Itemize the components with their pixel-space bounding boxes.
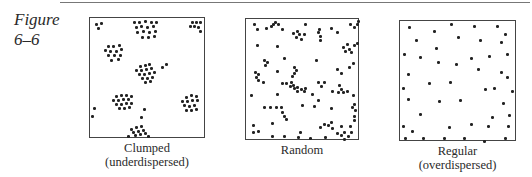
- point-dot: [500, 71, 503, 74]
- point-dot: [276, 45, 279, 48]
- point-dot: [97, 27, 100, 30]
- point-dot: [139, 133, 142, 136]
- point-dot: [250, 94, 253, 97]
- point-dot: [313, 105, 316, 108]
- point-dot: [125, 94, 128, 97]
- point-dot: [340, 72, 343, 75]
- point-dot: [199, 21, 202, 24]
- caption-title: Regular: [389, 144, 526, 158]
- point-dot: [350, 131, 353, 134]
- point-dot: [342, 91, 345, 94]
- point-dot: [404, 137, 407, 140]
- point-dot: [493, 87, 496, 90]
- figure-label: Figure 6–6: [14, 10, 60, 50]
- point-dot: [327, 124, 330, 127]
- top-rule-divider: [60, 2, 530, 3]
- point-dot: [120, 48, 123, 51]
- point-dot: [338, 84, 341, 87]
- point-dot: [127, 135, 130, 138]
- point-dot: [252, 131, 255, 134]
- point-dot: [125, 102, 128, 105]
- point-dot: [304, 23, 307, 26]
- point-dot: [257, 79, 260, 82]
- point-dot: [144, 132, 147, 135]
- point-dot: [269, 106, 272, 109]
- point-dot: [195, 108, 198, 111]
- point-dot: [488, 55, 491, 58]
- point-dot: [148, 31, 151, 34]
- point-dot: [140, 25, 143, 28]
- point-dot: [303, 90, 306, 93]
- point-dot: [281, 111, 284, 114]
- point-dot: [154, 30, 157, 33]
- point-dot: [128, 106, 131, 109]
- point-dot: [135, 26, 138, 29]
- figure-label-number: 6–6: [14, 30, 60, 50]
- point-dot: [319, 126, 322, 129]
- point-dot: [130, 95, 133, 98]
- point-dot: [161, 66, 164, 69]
- point-dot: [155, 21, 158, 24]
- point-dot: [348, 66, 351, 69]
- point-dot: [299, 131, 302, 134]
- point-dot: [330, 107, 333, 110]
- point-dot: [95, 23, 98, 26]
- point-dot: [130, 102, 133, 105]
- point-dot: [324, 136, 327, 139]
- point-dot: [115, 95, 118, 98]
- point-dot: [148, 63, 151, 66]
- point-dot: [145, 68, 148, 71]
- point-dot: [147, 36, 150, 39]
- point-dot: [336, 132, 339, 135]
- point-dot: [506, 76, 509, 79]
- point-dot: [189, 25, 192, 28]
- point-dot: [320, 85, 323, 88]
- point-dot: [271, 122, 274, 125]
- point-dot: [265, 27, 268, 30]
- point-dot: [407, 73, 410, 76]
- point-dot: [138, 21, 141, 24]
- point-dot: [344, 50, 347, 53]
- point-dot: [142, 30, 145, 33]
- point-dot: [353, 26, 356, 29]
- point-dot: [113, 54, 116, 57]
- point-dot: [146, 77, 149, 80]
- point-dot: [193, 104, 196, 107]
- point-dot: [349, 125, 352, 128]
- point-dot: [352, 62, 355, 65]
- point-dot: [504, 137, 507, 140]
- point-dot: [419, 56, 422, 59]
- point-dot: [422, 137, 425, 140]
- point-dot: [190, 94, 193, 97]
- point-dot: [349, 23, 352, 26]
- point-dot: [402, 125, 405, 128]
- point-dot: [318, 28, 321, 31]
- point-dot: [271, 135, 274, 138]
- point-dot: [263, 106, 266, 109]
- point-dot: [500, 41, 503, 44]
- point-dot: [107, 54, 110, 57]
- caption-subtitle: (underdispersed): [79, 155, 215, 169]
- point-dot: [127, 98, 130, 101]
- point-dot: [402, 87, 405, 90]
- point-dot: [100, 22, 103, 25]
- point-dot: [150, 21, 153, 24]
- point-dot: [107, 45, 110, 48]
- point-dot: [143, 73, 146, 76]
- point-dot: [438, 100, 441, 103]
- point-dot: [300, 38, 303, 41]
- point-dot: [135, 126, 138, 129]
- point-dot: [336, 31, 339, 34]
- point-dot: [285, 82, 288, 85]
- point-dot: [504, 33, 507, 36]
- point-dot: [134, 134, 137, 137]
- point-dot: [133, 21, 136, 24]
- point-dot: [340, 125, 343, 128]
- point-dot: [455, 63, 458, 66]
- point-dot: [276, 93, 279, 96]
- figure-label-word: Figure: [14, 10, 60, 30]
- point-dot: [415, 39, 418, 42]
- point-dot: [257, 130, 260, 133]
- point-dot: [147, 135, 150, 138]
- point-dot: [141, 77, 144, 80]
